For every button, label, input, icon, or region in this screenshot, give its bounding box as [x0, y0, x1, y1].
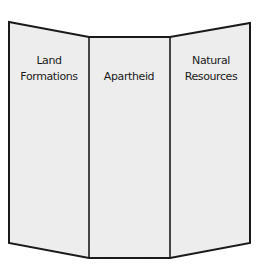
left-panel-label-line-2: Formations: [20, 69, 77, 85]
left-panel-label: Land Formations: [20, 53, 77, 85]
center-panel-label: Apartheid: [104, 69, 154, 85]
brochure-outline: [0, 0, 271, 274]
center-panel-label-line-1: Apartheid: [104, 69, 154, 85]
left-panel-label-line-1: Land: [20, 53, 77, 69]
trifold-brochure-diagram: Land Formations Apartheid Natural Resour…: [0, 0, 271, 274]
right-panel-label-line-1: Natural: [185, 53, 238, 69]
right-panel-label: Natural Resources: [185, 53, 238, 85]
right-panel-label-line-2: Resources: [185, 69, 238, 85]
